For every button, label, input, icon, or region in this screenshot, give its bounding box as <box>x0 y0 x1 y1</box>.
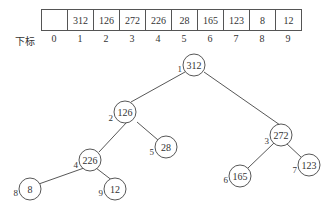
node-value: 28 <box>161 142 171 153</box>
node-value: 123 <box>302 160 317 171</box>
node-value: 272 <box>274 130 289 141</box>
node-value: 312 <box>187 60 202 71</box>
node-index: 7 <box>293 165 298 175</box>
node-index: 1 <box>178 64 183 74</box>
node-index: 3 <box>265 136 270 146</box>
node-value: 126 <box>118 107 133 118</box>
node-index: 9 <box>99 188 104 198</box>
node-index: 4 <box>74 160 79 170</box>
node-index: 8 <box>14 188 19 198</box>
node-index: 6 <box>224 175 229 185</box>
node-value: 165 <box>233 171 248 182</box>
node-value: 8 <box>28 184 33 195</box>
node-value: 226 <box>83 155 98 166</box>
node-index: 5 <box>150 147 155 157</box>
node-index: 2 <box>109 113 114 123</box>
heap-tree: 312 126 272 226 28 165 123 8 12 1 2 3 4 … <box>0 0 322 212</box>
node-value: 12 <box>110 184 120 195</box>
